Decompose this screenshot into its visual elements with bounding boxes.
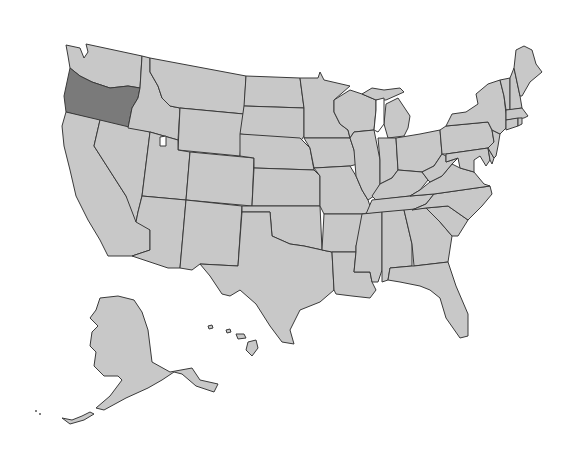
state-hawaii-oahu[interactable] [226,329,231,333]
aleutian-dot-1 [35,410,37,412]
state-michigan[interactable] [384,98,410,138]
state-wyoming[interactable] [178,108,244,156]
great-salt-lake [160,136,166,146]
aleutian-islands [62,412,94,424]
state-north-dakota[interactable] [244,76,304,108]
state-colorado[interactable] [186,152,254,206]
state-hawaii-big-island[interactable] [246,340,258,356]
state-kansas[interactable] [252,168,320,206]
state-florida[interactable] [388,262,468,338]
aleutian-dot-2 [39,413,41,415]
us-states-map [0,0,576,459]
state-maine[interactable] [514,46,542,96]
state-hawaii-maui[interactable] [236,334,246,339]
state-hawaii-kauai[interactable] [208,325,213,329]
state-alaska[interactable] [90,296,218,410]
state-rhode-island[interactable] [518,118,522,126]
state-connecticut[interactable] [506,118,518,130]
lake-michigan [374,98,384,132]
state-new-mexico[interactable] [180,200,242,270]
